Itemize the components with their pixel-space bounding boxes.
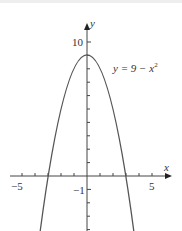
equation-exponent: 2 [154, 61, 158, 69]
x-axis-label: x [164, 162, 169, 173]
y-tick-label-10: 10 [72, 37, 83, 48]
x-axis-arrow-icon [165, 173, 172, 179]
x-tick-label-5: 5 [149, 181, 155, 192]
equation-prefix: y = 9 − [113, 62, 149, 74]
y-tick-label-neg1: −1 [73, 185, 85, 196]
equation-annotation: y = 9 − x2 [113, 62, 158, 74]
x-tick-label-neg5: −5 [11, 181, 23, 192]
y-ticks [87, 42, 91, 230]
y-axis-label: y [90, 18, 95, 29]
parabola-chart [0, 0, 182, 231]
